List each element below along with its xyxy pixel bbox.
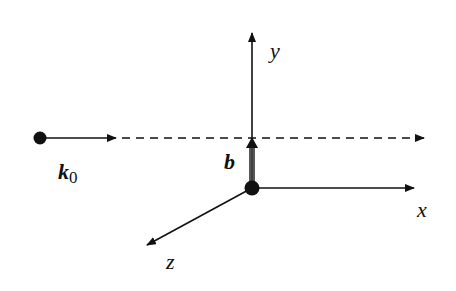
target-origin [245, 181, 260, 196]
z-axis [147, 188, 252, 245]
diagram-canvas [0, 0, 456, 291]
scattering-diagram: y x z b k0 [0, 0, 456, 291]
wave-vector-label: k0 [58, 161, 78, 183]
x-axis-label: x [417, 199, 427, 221]
y-axis-label: y [270, 40, 280, 62]
wave-vector-subscript: 0 [69, 168, 78, 187]
impact-parameter-label: b [224, 151, 235, 173]
wave-vector-symbol: k [58, 159, 69, 184]
incoming-particle [34, 132, 117, 145]
z-axis-label: z [166, 251, 175, 273]
